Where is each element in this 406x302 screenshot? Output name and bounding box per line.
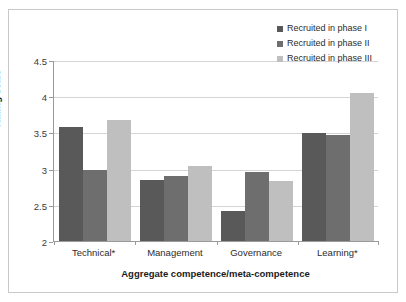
plot-area (53, 61, 378, 242)
x-axis-tick-mark (217, 241, 218, 245)
bar (221, 211, 245, 241)
bar (164, 176, 188, 241)
x-axis-tick-label: Governance (216, 247, 297, 258)
y-axis-tick-label: 2 (7, 237, 47, 248)
y-axis-tick-label: 3 (7, 164, 47, 175)
x-axis-tick-mark (298, 241, 299, 245)
bar-group-inner (54, 61, 135, 241)
y-axis-tick-mark (49, 206, 53, 207)
bar-group-inner (135, 61, 216, 241)
legend-label: Recruited in phase II (287, 39, 370, 48)
bar (326, 135, 350, 241)
legend-label: Recruited in phase III (287, 54, 372, 63)
bar (350, 93, 374, 241)
x-axis-tick-mark (378, 241, 379, 245)
x-axis-tick-mark (135, 241, 136, 245)
legend-item: Recruited in phase III (277, 51, 372, 66)
y-axis-title: Rating scale (0, 70, 2, 127)
bar (59, 127, 83, 241)
bar-group (217, 61, 298, 241)
bar-group (54, 61, 135, 241)
y-axis-tick-label: 4.5 (7, 56, 47, 67)
bar-group-inner (298, 61, 379, 241)
legend-swatch-icon (277, 26, 283, 32)
x-axis-title: Aggregate competence/meta-competence (53, 268, 378, 279)
y-axis-tick-label: 3.5 (7, 128, 47, 139)
bar (245, 172, 269, 241)
y-axis-tick-mark (49, 242, 53, 243)
bar (83, 170, 107, 241)
legend-label: Recruited in phase I (287, 24, 367, 33)
x-axis-tick-mark (54, 241, 55, 245)
x-axis-tick-label: Technical* (53, 247, 134, 258)
legend: Recruited in phase IRecruited in phase I… (277, 21, 372, 66)
bar (107, 120, 131, 241)
legend-item: Recruited in phase II (277, 36, 372, 51)
legend-swatch-icon (277, 56, 283, 62)
legend-swatch-icon (277, 41, 283, 47)
bar-group (135, 61, 216, 241)
y-axis-tick-mark (49, 133, 53, 134)
bar (188, 166, 212, 241)
legend-item: Recruited in phase I (277, 21, 372, 36)
bar-chart-figure: Rating scale Aggregate competence/meta-c… (0, 0, 406, 302)
x-axis-tick-label: Learning* (297, 247, 378, 258)
bar-group-inner (217, 61, 298, 241)
bar (140, 180, 164, 241)
bar (302, 133, 326, 241)
y-axis-tick-label: 2.5 (7, 200, 47, 211)
y-axis-tick-mark (49, 97, 53, 98)
y-axis-tick-mark (49, 61, 53, 62)
bar (269, 181, 293, 241)
y-axis-tick-mark (49, 170, 53, 171)
y-axis-tick-label: 4 (7, 92, 47, 103)
x-axis-tick-label: Management (134, 247, 215, 258)
bar-group (298, 61, 379, 241)
